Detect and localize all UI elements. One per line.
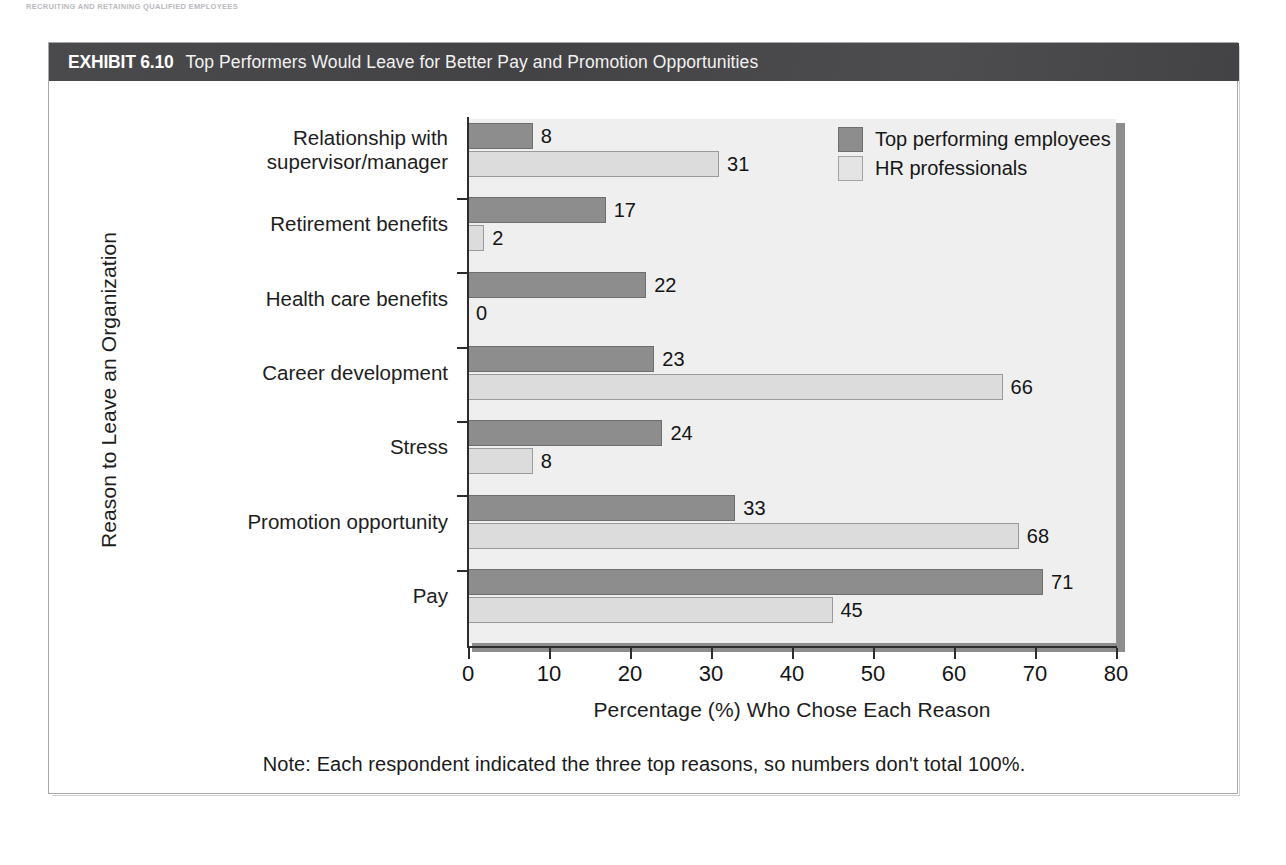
legend-item-hr-professionals: HR professionals [838,156,1111,181]
y-axis-line [467,117,469,647]
bar [468,123,533,149]
x-axis-tick-label: 10 [519,661,579,687]
bar [468,569,1043,595]
bar-value-label: 8 [541,448,552,474]
category-label: Stress [38,435,448,459]
x-axis-tick [792,648,794,659]
legend-item-top-performing-employees: Top performing employees [838,127,1111,152]
bar [468,597,833,623]
bar-value-label: 8 [541,123,552,149]
x-axis-tick-label: 80 [1086,661,1146,687]
x-axis-tick-label: 40 [762,661,822,687]
x-axis-tick [954,648,956,659]
x-axis-tick [549,648,551,659]
x-axis-tick-label: 30 [681,661,741,687]
exhibit-number: EXHIBIT 6.10 [68,52,174,73]
legend-label: HR professionals [875,157,1027,180]
chart-area: Reason to Leave an Organization 83117222… [49,81,1239,795]
category-label: Health care benefits [38,287,448,311]
bar [468,197,606,223]
chart-legend: Top performing employees HR professional… [838,127,1111,185]
bar-value-label: 2 [492,225,503,251]
x-axis-tick [1116,648,1118,659]
bar-value-label: 17 [614,197,636,223]
bar [468,272,646,298]
x-axis-tick-label: 0 [438,661,498,687]
x-axis-tick [873,648,875,659]
category-label: Pay [38,584,448,608]
exhibit-title-bar: EXHIBIT 6.10 Top Performers Would Leave … [49,43,1239,81]
category-label: Promotion opportunity [38,510,448,534]
bar [468,346,654,372]
x-axis-tick [711,648,713,659]
legend-label: Top performing employees [875,128,1111,151]
x-axis-tick-label: 50 [843,661,903,687]
exhibit-frame: EXHIBIT 6.10 Top Performers Would Leave … [48,42,1238,794]
bar-value-label: 22 [654,272,676,298]
bar [468,374,1003,400]
bar-value-label: 68 [1027,523,1049,549]
x-axis-tick [1035,648,1037,659]
exhibit-note: Note: Each respondent indicated the thre… [49,753,1239,776]
exhibit-title: Top Performers Would Leave for Better Pa… [186,52,759,73]
bar-value-label: 24 [670,420,692,446]
bar [468,495,735,521]
bar [468,523,1019,549]
x-axis-tick [630,648,632,659]
bar-value-label: 0 [476,300,487,326]
x-axis-tick [468,648,470,659]
category-label: Career development [38,361,448,385]
category-label: Relationship withsupervisor/manager [38,126,448,173]
x-axis-tick-label: 60 [924,661,984,687]
bar-value-label: 45 [841,597,863,623]
bar [468,420,662,446]
x-axis-title: Percentage (%) Who Chose Each Reason [468,698,1116,722]
bar [468,448,533,474]
bar-value-label: 71 [1051,569,1073,595]
legend-swatch-icon [838,156,863,181]
bar [468,151,719,177]
x-axis-tick-label: 20 [600,661,660,687]
bar-value-label: 66 [1011,374,1033,400]
category-label: Retirement benefits [38,212,448,236]
bar [468,225,484,251]
bar-value-label: 23 [662,346,684,372]
plot-shadow-right [1116,123,1125,647]
bar-value-label: 31 [727,151,749,177]
running-head: RECRUITING AND RETAINING QUALIFIED EMPLO… [26,2,238,11]
legend-swatch-icon [838,127,863,152]
x-axis-tick-label: 70 [1005,661,1065,687]
bar-value-label: 33 [743,495,765,521]
